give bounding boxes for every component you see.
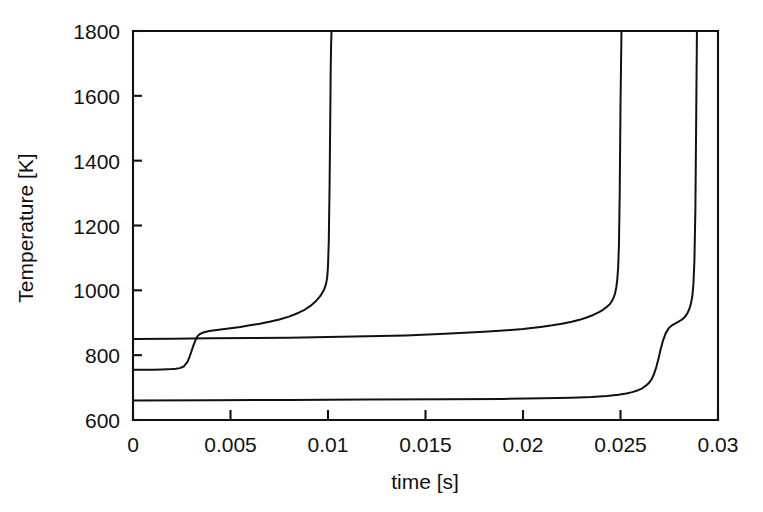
y-axis-title: Temperature [K]	[14, 153, 37, 302]
x-tick-label: 0.005	[204, 433, 257, 456]
y-tick-label: 1800	[73, 20, 120, 43]
y-tick-label: 1600	[73, 85, 120, 108]
x-axis-title: time [s]	[391, 470, 459, 493]
x-tick-label: 0.01	[308, 433, 349, 456]
x-tick-label: 0.02	[503, 433, 544, 456]
y-tick-label: 1000	[73, 279, 120, 302]
curve-2-mid-ignition	[133, 31, 621, 339]
x-axis-tick-labels: 00.0050.010.0150.020.0250.03	[127, 433, 738, 456]
data-series	[133, 31, 697, 401]
tick-marks	[133, 31, 718, 420]
x-tick-label: 0.025	[594, 433, 647, 456]
x-tick-label: 0.015	[399, 433, 452, 456]
curve-3-late-ignition	[133, 31, 697, 401]
x-tick-label: 0.03	[698, 433, 739, 456]
y-tick-label: 800	[85, 344, 120, 367]
temperature-vs-time-chart: 60080010001200140016001800 00.0050.010.0…	[0, 0, 763, 512]
curve-1-early-ignition	[133, 31, 332, 370]
chart-figure: 60080010001200140016001800 00.0050.010.0…	[0, 0, 763, 512]
y-tick-label: 1400	[73, 150, 120, 173]
y-axis-tick-labels: 60080010001200140016001800	[73, 20, 120, 432]
x-tick-label: 0	[127, 433, 139, 456]
y-tick-label: 1200	[73, 215, 120, 238]
plot-frame	[133, 31, 718, 420]
y-tick-label: 600	[85, 409, 120, 432]
